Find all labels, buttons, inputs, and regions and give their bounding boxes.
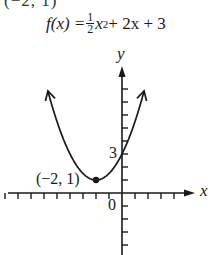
x-axis-arrow-icon <box>184 190 195 197</box>
y-axis <box>119 66 129 255</box>
y-intercept-label: 3 <box>109 144 117 162</box>
vertex-label: (−2, 1) <box>36 170 80 188</box>
x-axis-label: x <box>200 181 208 201</box>
graph-canvas <box>0 0 215 255</box>
y-axis-arrow-icon <box>119 66 126 77</box>
parabola-curve <box>48 91 144 180</box>
vertex-point <box>93 177 99 183</box>
x-axis <box>5 190 195 200</box>
y-axis-label: y <box>117 44 125 64</box>
origin-label: 0 <box>108 196 116 214</box>
